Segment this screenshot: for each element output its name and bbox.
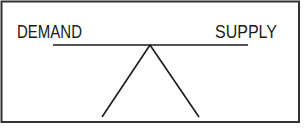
diagram-border	[2, 2, 300, 123]
supply-label: SUPPLY	[215, 21, 277, 42]
demand-label: DEMAND	[17, 21, 82, 42]
fulcrum-left-leg	[102, 45, 150, 117]
balance-diagram: DEMAND SUPPLY	[0, 0, 307, 134]
fulcrum-right-leg	[150, 45, 199, 117]
